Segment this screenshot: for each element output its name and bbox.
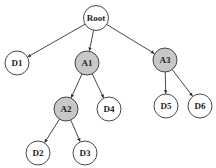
node-label: D6	[195, 101, 206, 111]
edge-a2-d3	[71, 120, 80, 142]
node-label: D3	[80, 148, 91, 158]
node-d1: D1	[5, 51, 29, 75]
edge-root-a1	[89, 30, 93, 50]
node-a1: A1	[75, 51, 99, 75]
node-d3: D3	[73, 141, 97, 165]
node-label: D1	[12, 58, 23, 68]
node-d6: D6	[188, 94, 212, 118]
node-label: A3	[160, 55, 171, 65]
edge-root-d1	[28, 24, 85, 57]
node-a2: A2	[54, 97, 78, 121]
node-label: D2	[33, 148, 44, 158]
edges-group	[28, 24, 193, 142]
edge-a2-d2	[45, 119, 60, 142]
node-label: A1	[82, 58, 93, 68]
edge-root-a3	[107, 24, 155, 53]
node-label: A2	[61, 104, 72, 114]
node-d4: D4	[97, 97, 121, 121]
edge-a1-d4	[92, 74, 103, 98]
tree-diagram: RootD1A1A3A2D4D5D6D2D3	[0, 0, 216, 168]
edge-a3-d6	[172, 70, 192, 97]
node-label: Root	[87, 13, 106, 23]
edge-a1-a2	[71, 74, 82, 98]
node-d5: D5	[154, 94, 178, 118]
node-a3: A3	[153, 48, 177, 72]
node-d2: D2	[26, 141, 50, 165]
node-label: D4	[104, 104, 115, 114]
node-root: Root	[84, 6, 109, 31]
node-label: D5	[161, 101, 172, 111]
nodes-group: RootD1A1A3A2D4D5D6D2D3	[5, 6, 212, 166]
